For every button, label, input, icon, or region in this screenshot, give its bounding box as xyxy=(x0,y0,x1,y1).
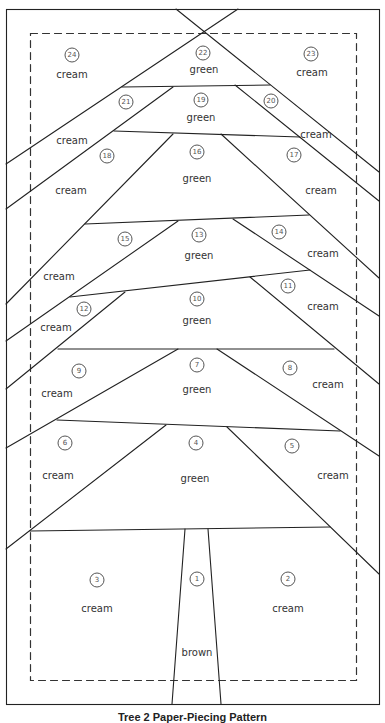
piece-number-circle: 16 xyxy=(190,145,205,160)
piece-color-label: cream xyxy=(305,186,336,196)
seam-line xyxy=(6,349,178,448)
piece-color-label: cream xyxy=(317,471,348,481)
piece-number-circle: 10 xyxy=(190,292,205,307)
seam-line xyxy=(6,292,125,389)
piece-number-circle: 3 xyxy=(90,573,105,588)
seam-line xyxy=(114,131,300,137)
piece-color-label: brown xyxy=(182,648,213,658)
seam-line xyxy=(30,527,330,531)
piece-number-circle: 21 xyxy=(119,95,134,110)
piece-number-circle: 7 xyxy=(190,358,205,373)
piece-color-label: cream xyxy=(300,130,331,140)
piece-number-circle: 17 xyxy=(287,148,302,163)
seam-line xyxy=(122,85,270,87)
piece-color-label: cream xyxy=(55,186,86,196)
piece-color-label: cream xyxy=(312,380,343,390)
piece-color-label: cream xyxy=(81,604,112,614)
piece-number-circle: 5 xyxy=(285,439,300,454)
piece-number-circle: 22 xyxy=(196,46,211,61)
piece-number-circle: 23 xyxy=(304,47,319,62)
seam-line xyxy=(235,85,379,201)
seam-line xyxy=(6,134,173,304)
seam-line xyxy=(57,420,340,431)
piece-color-label: cream xyxy=(56,136,87,146)
trunk-right-line xyxy=(208,529,221,704)
seam-line xyxy=(233,219,379,316)
piece-color-label: green xyxy=(187,113,216,123)
piece-color-label: green xyxy=(190,65,219,75)
piece-number-circle: 13 xyxy=(192,228,207,243)
piece-number-circle: 14 xyxy=(272,225,287,240)
piece-color-label: cream xyxy=(307,302,338,312)
piece-color-label: green xyxy=(183,316,212,326)
piece-color-label: cream xyxy=(40,323,71,333)
piece-color-label: green xyxy=(183,174,212,184)
trunk-left-line xyxy=(172,529,185,704)
piece-color-label: green xyxy=(185,251,214,261)
piece-color-label: cream xyxy=(42,471,73,481)
piece-number-circle: 6 xyxy=(58,436,73,451)
piece-number-circle: 2 xyxy=(281,572,296,587)
piece-number-circle: 15 xyxy=(118,232,133,247)
piece-color-label: cream xyxy=(296,68,327,78)
caption: Tree 2 Paper-Piecing Pattern xyxy=(0,711,385,723)
seam-line xyxy=(70,270,310,297)
piece-color-label: green xyxy=(183,385,212,395)
piece-number-circle: 9 xyxy=(72,364,87,379)
piece-color-label: cream xyxy=(41,389,72,399)
piece-number-circle: 18 xyxy=(100,149,115,164)
piece-color-label: cream xyxy=(272,604,303,614)
seam-line xyxy=(217,349,379,456)
piece-number-circle: 8 xyxy=(283,361,298,376)
piece-color-label: cream xyxy=(307,249,338,259)
piece-number-circle: 24 xyxy=(65,48,80,63)
seam-line xyxy=(250,277,379,384)
piece-color-label: cream xyxy=(56,70,87,80)
piece-number-circle: 12 xyxy=(77,302,92,317)
piece-number-circle: 19 xyxy=(194,93,209,108)
piece-number-circle: 1 xyxy=(190,572,205,587)
seam-line xyxy=(85,215,309,224)
piece-number-circle: 20 xyxy=(264,94,279,109)
seam-line xyxy=(6,221,178,341)
piece-color-label: cream xyxy=(43,272,74,282)
piece-number-circle: 11 xyxy=(281,279,296,294)
piece-color-label: green xyxy=(181,474,210,484)
piece-number-circle: 4 xyxy=(189,436,204,451)
